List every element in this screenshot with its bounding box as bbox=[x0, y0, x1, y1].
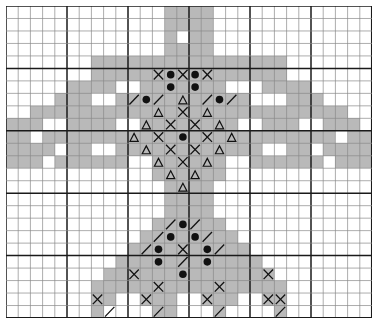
chart-cell-filled bbox=[140, 68, 152, 80]
chart-cell-filled bbox=[201, 43, 213, 55]
chart-cell-filled bbox=[250, 131, 262, 143]
chart-cell-filled bbox=[189, 31, 201, 43]
chart-cell-filled bbox=[201, 118, 213, 130]
chart-cell-filled bbox=[152, 143, 164, 155]
chart-cell-filled bbox=[67, 81, 79, 93]
chart-cell-filled bbox=[177, 168, 189, 180]
chart-cell-filled bbox=[262, 118, 274, 130]
chart-cell-filled bbox=[238, 143, 250, 155]
chart-cell-filled bbox=[323, 118, 335, 130]
chart-cell-filled bbox=[91, 118, 103, 130]
chart-cell-filled bbox=[189, 281, 201, 293]
chart-cell-filled bbox=[165, 281, 177, 293]
chart-cell-filled bbox=[6, 131, 18, 143]
chart-cell-filled bbox=[152, 81, 164, 93]
chart-cell-filled bbox=[262, 81, 274, 93]
chart-cell-filled bbox=[226, 281, 238, 293]
chart-cell-filled bbox=[226, 268, 238, 280]
chart-cell-filled bbox=[213, 93, 225, 105]
chart-cell-filled bbox=[287, 118, 299, 130]
chart-cell-filled bbox=[287, 81, 299, 93]
chart-cell-filled bbox=[152, 131, 164, 143]
chart-cell-filled bbox=[177, 218, 189, 230]
chart-cell-filled bbox=[152, 156, 164, 168]
chart-cell-filled bbox=[79, 143, 91, 155]
chart-cell-filled bbox=[262, 106, 274, 118]
chart-cell-filled bbox=[116, 106, 128, 118]
chart-cell-filled bbox=[189, 243, 201, 255]
chart-cell-filled bbox=[91, 68, 103, 80]
chart-cell-filled bbox=[262, 56, 274, 68]
chart-cell-filled bbox=[213, 306, 225, 318]
chart-cell-filled bbox=[250, 106, 262, 118]
chart-cell-filled bbox=[165, 293, 177, 305]
chart-cell-filled bbox=[116, 93, 128, 105]
chart-cell-filled bbox=[226, 106, 238, 118]
chart-cell-filled bbox=[165, 143, 177, 155]
chart-cell-filled bbox=[177, 81, 189, 93]
chart-cell-filled bbox=[262, 156, 274, 168]
chart-cell-filled bbox=[140, 106, 152, 118]
chart-cell-filled bbox=[140, 56, 152, 68]
chart-cell-filled bbox=[165, 243, 177, 255]
chart-cell-filled bbox=[177, 68, 189, 80]
chart-cell-filled bbox=[152, 231, 164, 243]
chart-cell-filled bbox=[165, 268, 177, 280]
chart-cell-filled bbox=[140, 268, 152, 280]
chart-cell-filled bbox=[104, 293, 116, 305]
chart-cell-filled bbox=[55, 93, 67, 105]
chart-cell-filled bbox=[140, 256, 152, 268]
chart-cell-filled bbox=[18, 131, 30, 143]
chart-cell-filled bbox=[91, 306, 103, 318]
chart-cell-filled bbox=[104, 156, 116, 168]
chart-cell-filled bbox=[348, 156, 360, 168]
chart-cell-filled bbox=[250, 256, 262, 268]
chart-cell-filled bbox=[128, 106, 140, 118]
chart-cell-filled bbox=[226, 256, 238, 268]
chart-cell-filled bbox=[201, 18, 213, 30]
chart-cell-filled bbox=[152, 293, 164, 305]
chart-cell-filled bbox=[165, 131, 177, 143]
chart-cell-filled bbox=[226, 293, 238, 305]
chart-cell-filled bbox=[262, 293, 274, 305]
chart-cell-filled bbox=[299, 81, 311, 93]
chart-cell-filled bbox=[104, 281, 116, 293]
chart-cell-filled bbox=[250, 56, 262, 68]
chart-cell-filled bbox=[348, 143, 360, 155]
chart-cell-filled bbox=[274, 118, 286, 130]
chart-cell-filled bbox=[201, 81, 213, 93]
chart-cell-filled bbox=[116, 68, 128, 80]
chart-cell-filled bbox=[335, 106, 347, 118]
chart-cell-filled bbox=[311, 93, 323, 105]
chart-cell-filled bbox=[201, 106, 213, 118]
chart-cell-filled bbox=[201, 243, 213, 255]
chart-cell-filled bbox=[274, 306, 286, 318]
chart-cell-filled bbox=[116, 156, 128, 168]
chart-cell-filled bbox=[226, 68, 238, 80]
chart-cell-filled bbox=[238, 268, 250, 280]
chart-cell-filled bbox=[152, 281, 164, 293]
chart-cell-filled bbox=[177, 243, 189, 255]
chart-cell-filled bbox=[262, 281, 274, 293]
chart-cell-filled bbox=[165, 181, 177, 193]
chart-cell-filled bbox=[152, 256, 164, 268]
chart-cell-filled bbox=[152, 93, 164, 105]
chart-cell-filled bbox=[201, 68, 213, 80]
chart-cell-filled bbox=[189, 93, 201, 105]
chart-cell-filled bbox=[201, 256, 213, 268]
chart-cell-filled bbox=[79, 106, 91, 118]
chart-cell-filled bbox=[238, 281, 250, 293]
chart-cell-filled bbox=[274, 131, 286, 143]
chart-cell-filled bbox=[104, 56, 116, 68]
chart-cell-filled bbox=[360, 131, 372, 143]
chart-cell-filled bbox=[128, 56, 140, 68]
chart-cell-filled bbox=[201, 231, 213, 243]
chart-cell-filled bbox=[299, 131, 311, 143]
chart-cell-filled bbox=[67, 143, 79, 155]
chart-cell-filled bbox=[201, 56, 213, 68]
chart-cell-filled bbox=[287, 131, 299, 143]
chart-cell-filled bbox=[201, 31, 213, 43]
chart-cell-filled bbox=[165, 6, 177, 18]
chart-cell-filled bbox=[43, 131, 55, 143]
chart-cell-filled bbox=[226, 143, 238, 155]
